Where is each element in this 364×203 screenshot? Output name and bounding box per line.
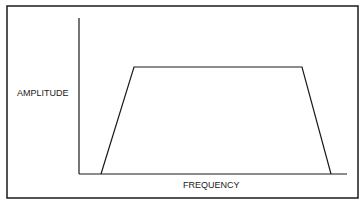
diagram-canvas: AMPLITUDE FREQUENCY xyxy=(0,0,364,203)
y-axis-label: AMPLITUDE xyxy=(17,88,69,98)
x-axis-label: FREQUENCY xyxy=(183,180,240,190)
outer-frame xyxy=(7,6,358,198)
trapezoid-response-curve xyxy=(101,67,331,174)
